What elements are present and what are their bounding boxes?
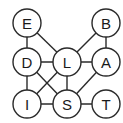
node-label: I bbox=[25, 96, 29, 113]
nodes-layer: EBDLAIST bbox=[13, 9, 120, 118]
node-label: E bbox=[22, 15, 32, 32]
node-label: D bbox=[22, 54, 33, 71]
node-label: T bbox=[101, 96, 110, 113]
node-t: T bbox=[92, 90, 120, 118]
node-label: S bbox=[62, 96, 72, 113]
node-label: L bbox=[63, 54, 71, 71]
node-e: E bbox=[13, 9, 41, 37]
node-a: A bbox=[92, 48, 120, 76]
node-i: I bbox=[13, 90, 41, 118]
node-label: B bbox=[101, 15, 111, 32]
graph-diagram: EBDLAIST bbox=[0, 0, 123, 123]
node-b: B bbox=[92, 9, 120, 37]
node-s: S bbox=[53, 90, 81, 118]
node-l: L bbox=[53, 48, 81, 76]
node-d: D bbox=[13, 48, 41, 76]
node-label: A bbox=[101, 54, 111, 71]
